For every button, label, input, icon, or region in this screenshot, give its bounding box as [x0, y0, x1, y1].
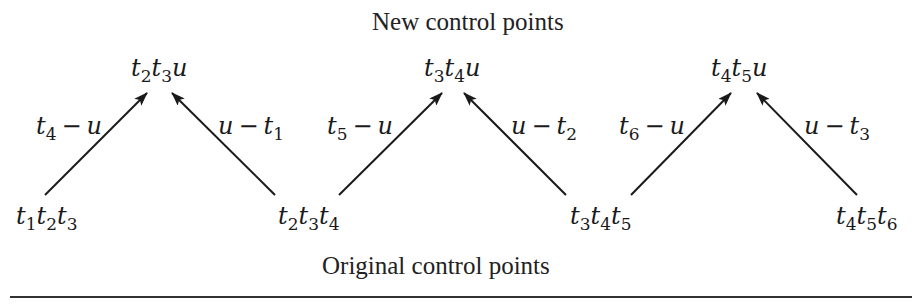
arrow-t2t3t4-to-t3t4u	[339, 93, 442, 195]
weight-label-t5-minus-u: t5−u	[327, 112, 393, 140]
bottom-rule-divider	[10, 296, 912, 298]
arrow-t3t4t5-to-t3t4u	[464, 93, 566, 195]
arrow-t4t5t6-to-t4t5u	[757, 93, 857, 195]
weight-label-t4-minus-u: t4−u	[36, 112, 102, 140]
weight-label-u-minus-t3: u−t3	[804, 112, 870, 140]
arrow-layer	[0, 0, 912, 307]
new-point-t3t4u: t3t4u	[424, 54, 480, 82]
new-point-t2t3u: t2t3u	[131, 54, 187, 82]
original-point-t4t5t6: t4t5t6	[836, 202, 897, 230]
arrow-t3t4t5-to-t4t5u	[631, 93, 731, 195]
original-point-t1t2t3: t1t2t3	[16, 202, 77, 230]
arrow-t1t2t3-to-t2t3u	[45, 93, 147, 195]
arrow-t2t3t4-to-t2t3u	[172, 93, 275, 195]
new-point-t4t5u: t4t5u	[711, 54, 767, 82]
weight-label-u-minus-t1: u−t1	[218, 112, 284, 140]
original-point-t3t4t5: t3t4t5	[570, 202, 631, 230]
weight-label-u-minus-t2: u−t2	[511, 112, 577, 140]
original-point-t2t3t4: t2t3t4	[278, 202, 339, 230]
weight-label-t6-minus-u: t6−u	[619, 112, 685, 140]
